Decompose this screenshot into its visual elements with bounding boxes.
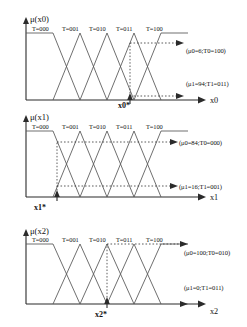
x-axis-arrowhead-x1: [198, 194, 206, 201]
y-axis-label-x2: μ(x2): [30, 226, 49, 236]
term-label-001-x0: T=001: [62, 25, 79, 32]
annotation-x0-high: (μ1=94;T1=011): [186, 80, 229, 88]
term-label-011-x0: T=011: [116, 25, 132, 32]
annotation-x1-high: (μ0=84;T0=000): [179, 139, 222, 147]
y-axis-arrowhead-x0: [23, 17, 29, 24]
guide-high-arrowhead-x0: [176, 40, 184, 46]
annotation-x0-low: (μ0=6;T0=100): [186, 47, 226, 55]
term-label-100-x1: T=100: [146, 123, 163, 130]
guide-high-arrowhead-x2: [180, 241, 188, 247]
x-axis-arrowhead-x0: [198, 97, 206, 104]
x-axis-label-x2: x2: [210, 307, 218, 316]
mf-curve-000-x0: [26, 33, 80, 100]
term-label-010-x0: T=010: [89, 25, 106, 32]
annotation-x2-low: (μ1=0;T1=011): [184, 284, 223, 292]
x-axis-arrowhead-x2: [198, 301, 206, 308]
mf-curve-010-x1: [80, 131, 134, 197]
guide-low-arrowhead-x2: [180, 301, 188, 307]
term-label-100-x2: T=100: [146, 236, 163, 243]
y-axis-label-x0: μ(x0): [30, 14, 49, 24]
term-label-001-x1: T=001: [62, 123, 79, 130]
term-label-000-x0: T=000: [32, 25, 49, 32]
term-label-011-x1: T=011: [116, 123, 132, 130]
mf-curve-001-x2: [53, 244, 107, 304]
marker-label-x1: x1*: [34, 203, 46, 212]
annotation-x1-low: (μ1=16;T1=001): [179, 183, 222, 191]
chart-panel-x2: μ(x2) x2 T=000 T=001 T=010 T=011 T=100 (…: [0, 212, 247, 327]
term-label-011-x2: T=011: [116, 236, 132, 243]
term-label-001-x2: T=001: [62, 236, 79, 243]
y-axis-arrowhead-x2: [23, 229, 29, 236]
mf-curve-001-x0: [53, 33, 107, 100]
mf-curve-011-x2: [107, 244, 161, 304]
term-label-000-x2: T=000: [32, 236, 49, 243]
mf-curve-000-x1: [26, 131, 80, 197]
term-label-010-x1: T=010: [89, 123, 106, 130]
guide-high-arrowhead-x1: [170, 139, 178, 145]
annotation-x2-high: (μ0=100;T0=010): [184, 249, 230, 257]
mf-curve-010-x0: [80, 33, 134, 100]
y-axis-arrowhead-x1: [23, 115, 29, 122]
marker-label-x2: x2*: [95, 310, 107, 319]
chart-panel-x0: μ(x0) x0 T=000 T=001 T=010 T=011 T=100 (…: [0, 0, 247, 108]
chart-panel-x1: μ(x1) x1 T=000 T=001 T=010 T=011 T=100 (…: [0, 105, 247, 213]
y-axis-label-x1: μ(x1): [30, 112, 49, 122]
mf-curve-100-x2: [134, 244, 188, 304]
x-axis-label-x0: x0: [210, 96, 218, 105]
mf-curve-011-x1: [107, 131, 161, 197]
mf-curve-000-x2: [26, 244, 80, 304]
guide-low-arrowhead-x1: [170, 183, 178, 189]
term-label-000-x1: T=000: [32, 123, 49, 130]
term-label-100-x0: T=100: [146, 25, 163, 32]
x-axis-label-x1: x1: [210, 193, 218, 202]
mf-curve-001-x1: [53, 131, 107, 197]
term-label-010-x2: T=010: [89, 236, 106, 243]
guide-low-arrowhead-x0: [176, 93, 184, 99]
figure-canvas: μ(x0) x0 T=000 T=001 T=010 T=011 T=100 (…: [0, 0, 247, 327]
